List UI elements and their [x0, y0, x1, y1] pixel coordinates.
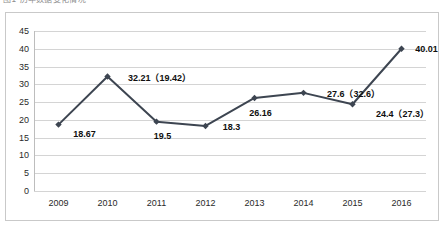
line-series	[34, 31, 426, 191]
x-axis-tick-label: 2010	[97, 198, 117, 208]
series-marker	[300, 90, 306, 96]
y-axis-tick-label: 25	[19, 97, 29, 107]
x-axis-tick-label: 2012	[195, 198, 215, 208]
y-axis-tick-label: 30	[19, 79, 29, 89]
x-axis-tick-label: 2016	[391, 198, 411, 208]
y-axis-tick-label: 5	[24, 168, 29, 178]
data-point-label: 19.5	[154, 131, 172, 141]
data-point-label: 26.16	[249, 108, 272, 118]
y-axis-tick-label: 15	[19, 133, 29, 143]
y-axis-tick-label: 45	[19, 26, 29, 36]
gridline	[34, 191, 426, 192]
data-point-label: 32.21（19.42）	[128, 71, 191, 84]
x-axis-tick-label: 2015	[342, 198, 362, 208]
x-axis-tick-label: 2014	[293, 198, 313, 208]
x-axis-tick-label: 2013	[244, 198, 264, 208]
x-axis-tick-label: 2011	[147, 198, 166, 208]
y-axis-tick-label: 10	[19, 150, 29, 160]
y-axis-tick-label: 20	[19, 115, 29, 125]
data-point-label: 27.6（32.6）	[327, 86, 380, 99]
data-point-label: 18.3	[223, 122, 241, 132]
plot-area: 051015202530354045 200920102011201220132…	[34, 31, 426, 191]
figure-caption-text: 图1 历年数据变化情况	[3, 0, 86, 5]
data-point-label: 40.01	[415, 44, 438, 54]
chart-frame: 051015202530354045 200920102011201220132…	[5, 12, 439, 221]
x-axis-tick-label: 2009	[48, 198, 68, 208]
figure-caption-strip: 图1 历年数据变化情况	[0, 0, 446, 8]
y-axis-tick-label: 35	[19, 62, 29, 72]
y-axis-tick-label: 0	[24, 186, 29, 196]
data-point-label: 18.67	[73, 129, 96, 139]
y-axis-tick-label: 40	[19, 44, 29, 54]
data-point-label: 24.4（27.3）	[376, 107, 429, 120]
